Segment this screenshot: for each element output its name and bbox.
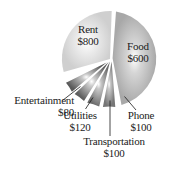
pie-chart-figure: Rent $800 Food $600 Entertainment $80 Ut… (0, 0, 174, 171)
pie-label-phone: Phone $100 (120, 110, 162, 134)
pie-label-utilities: Utilities $120 (56, 110, 104, 134)
pie-label-rent-amount: $800 (63, 36, 113, 48)
pie-label-utilities-amount: $120 (56, 122, 104, 134)
pie-label-phone-amount: $100 (120, 122, 162, 134)
pie-label-rent: Rent $800 (63, 24, 113, 48)
pie-label-transportation-amount: $100 (58, 148, 170, 160)
pie-label-transportation: Transportation $100 (58, 136, 170, 160)
pie-label-food-amount: $600 (118, 53, 158, 65)
pie-label-food: Food $600 (118, 41, 158, 65)
pie-slice-phone (103, 61, 115, 107)
